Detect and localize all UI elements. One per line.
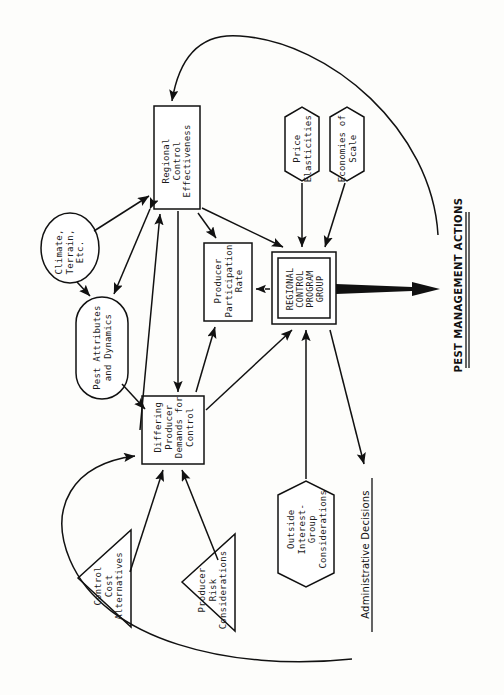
node-differing-producer-demands bbox=[142, 396, 204, 464]
node-regional-control-program-group-inner bbox=[278, 258, 330, 318]
node-control-cost-alternatives bbox=[78, 530, 131, 627]
thick-arrow-pest-management-actions bbox=[336, 282, 440, 296]
node-price-elasticities bbox=[285, 107, 319, 181]
underline-pest-management-actions bbox=[466, 212, 469, 368]
edge-economies-to-group bbox=[325, 183, 345, 247]
node-climate-terrain bbox=[41, 213, 99, 283]
label-pest-management-actions: PEST MANAGEMENT ACTIONS bbox=[453, 207, 464, 373]
node-pest-attributes bbox=[76, 297, 128, 399]
node-producer-participation-rate bbox=[204, 243, 252, 321]
diagram-canvas: Regional Control Effectiveness Climate, … bbox=[0, 0, 504, 695]
node-outside-interest-group bbox=[278, 481, 334, 587]
edge-cost-to-demands bbox=[130, 470, 163, 572]
node-economies-of-scale bbox=[330, 107, 364, 181]
edge-demands-to-group bbox=[206, 330, 292, 410]
node-producer-risk-considerations bbox=[182, 534, 235, 631]
edge-climate-to-pest bbox=[77, 282, 90, 296]
edge-effectiveness-to-participation bbox=[198, 213, 216, 238]
edge-group-to-admin-decisions bbox=[330, 330, 364, 464]
edge-demands-to-participation bbox=[196, 327, 215, 392]
diagram-svg bbox=[0, 0, 504, 695]
edge-risk-to-demands bbox=[182, 470, 218, 560]
edge-climate-to-effectiveness bbox=[94, 196, 149, 231]
node-regional-control-effectiveness bbox=[154, 106, 200, 209]
label-administrative-decisions: Administrative Decisions bbox=[360, 476, 371, 634]
edge-effectiveness-pest-bidir bbox=[114, 209, 150, 294]
edge-effectiveness-to-group bbox=[202, 208, 283, 247]
